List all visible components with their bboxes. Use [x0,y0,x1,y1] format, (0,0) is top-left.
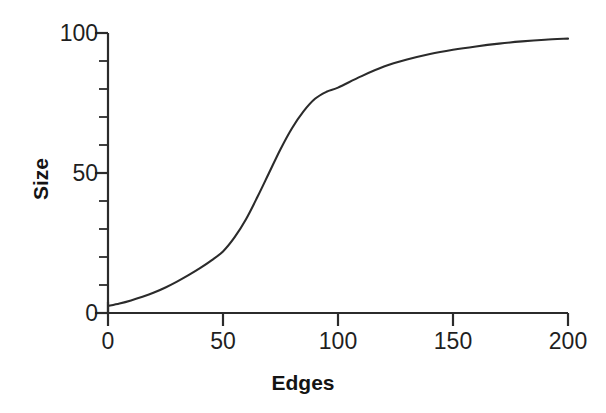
y-tick-label-0: 0 [38,302,98,325]
x-tick-label-200: 200 [538,330,598,353]
data-series-line [108,39,568,306]
x-tick-label-100: 100 [308,330,368,353]
x-axis-title: Edges [0,372,606,393]
y-axis-title: Size [30,158,51,200]
x-tick-label-50: 50 [193,330,253,353]
y-tick-label-100: 100 [38,22,98,45]
x-tick-label-150: 150 [423,330,483,353]
sigmoid-chart-figure: 100 50 0 0 50 100 150 200 Size Edges [0,0,606,413]
x-tick-label-0: 0 [78,330,138,353]
